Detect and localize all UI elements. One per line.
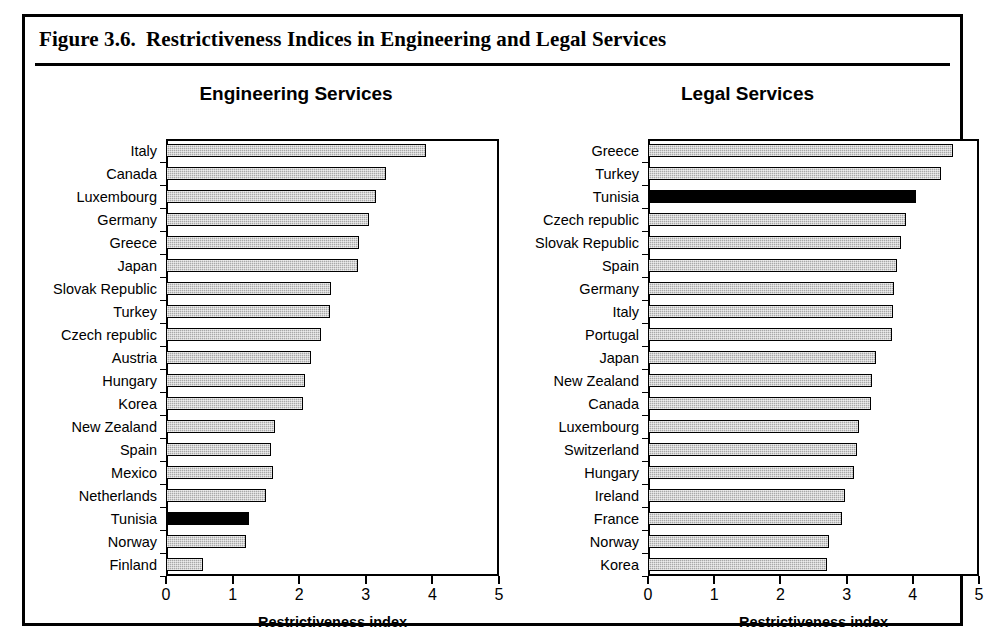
x-axis-title-engineering: Restrictiveness index [166,614,499,630]
category-label-norway: Norway [108,535,157,549]
y-tick [642,162,648,163]
bar-portugal [648,328,892,341]
bar-switzerland [648,443,857,456]
y-tick [642,438,648,439]
figure-title: Figure 3.6.Restrictiveness Indices in En… [39,27,666,52]
bar-finland [166,558,203,571]
bar-germany [166,213,369,226]
category-label-austria: Austria [112,351,157,365]
panel-legal-services: Legal Services GreeceTurkeyTunisiaCzech … [505,69,960,619]
category-label-portugal: Portugal [585,328,639,342]
x-tick-label: 3 [361,586,370,604]
x-tick [713,576,715,584]
category-label-greece: Greece [109,236,157,250]
y-tick [160,438,166,439]
category-label-canada: Canada [588,397,639,411]
bar-new-zealand [166,420,275,433]
y-tick [642,530,648,531]
y-tick [160,415,166,416]
x-tick-label: 1 [710,586,719,604]
bar-norway [648,535,829,548]
x-tick [165,576,167,584]
category-label-italy: Italy [612,305,639,319]
figure-frame: Figure 3.6.Restrictiveness Indices in En… [22,14,963,626]
x-tick [846,576,848,584]
x-tick [431,576,433,584]
bar-japan [648,351,876,364]
x-tick-label: 5 [495,586,504,604]
x-tick [298,576,300,584]
category-label-germany: Germany [97,213,157,227]
y-tick [160,277,166,278]
category-label-tunisia: Tunisia [111,512,157,526]
bars-engineering [166,139,499,576]
y-tick [160,231,166,232]
y-tick [160,254,166,255]
x-tick [232,576,234,584]
x-tick-label: 0 [162,586,171,604]
x-axis-engineering: 012345 [166,576,499,584]
category-label-luxembourg: Luxembourg [558,420,639,434]
category-label-hungary: Hungary [584,466,639,480]
category-label-slovak-republic: Slovak Republic [535,236,639,250]
x-tick-label: 0 [644,586,653,604]
x-tick [647,576,649,584]
y-tick [160,369,166,370]
panel-engineering-services: Engineering Services ItalyCanadaLuxembou… [31,69,501,619]
category-label-czech-republic: Czech republic [61,328,157,342]
x-tick-label: 4 [908,586,917,604]
y-tick [160,553,166,554]
category-label-korea: Korea [118,397,157,411]
x-tick [498,576,500,584]
y-tick [160,530,166,531]
bar-canada [166,167,386,180]
y-tick [642,323,648,324]
y-tick [642,392,648,393]
bar-spain [648,259,897,272]
bar-canada [648,397,871,410]
bar-luxembourg [166,190,376,203]
x-tick-label: 5 [975,586,984,604]
category-label-switzerland: Switzerland [564,443,639,457]
y-tick [160,461,166,462]
y-tick [642,461,648,462]
bar-austria [166,351,311,364]
x-tick [912,576,914,584]
y-tick [160,300,166,301]
x-axis-title-legal: Restrictiveness index [648,614,979,630]
x-tick [365,576,367,584]
bar-czech-republic [648,213,906,226]
bar-czech-republic [166,328,321,341]
bar-slovak-republic [648,236,901,249]
bar-norway [166,535,246,548]
category-label-slovak-republic: Slovak Republic [53,282,157,296]
category-label-italy: Italy [130,144,157,158]
bar-luxembourg [648,420,859,433]
category-label-luxembourg: Luxembourg [76,190,157,204]
panel-title-engineering: Engineering Services [31,83,501,105]
y-tick [642,415,648,416]
x-axis-legal: 012345 [648,576,979,584]
category-label-czech-republic: Czech republic [543,213,639,227]
category-label-japan: Japan [599,351,639,365]
y-tick [642,277,648,278]
x-tick [978,576,980,584]
category-label-new-zealand: New Zealand [72,420,157,434]
plot-legal: GreeceTurkeyTunisiaCzech republicSlovak … [648,139,979,576]
y-tick [642,185,648,186]
bar-greece [166,236,359,249]
category-label-korea: Korea [600,558,639,572]
category-label-tunisia: Tunisia [593,190,639,204]
y-tick [642,507,648,508]
category-label-finland: Finland [109,558,157,572]
x-tick-label: 4 [428,586,437,604]
bar-new-zealand [648,374,872,387]
bar-italy [166,144,426,157]
category-label-france: France [594,512,639,526]
panel-title-legal: Legal Services [505,83,960,105]
figure-title-text: Restrictiveness Indices in Engineering a… [146,27,666,51]
bar-germany [648,282,894,295]
x-tick-label: 3 [842,586,851,604]
category-labels-legal: GreeceTurkeyTunisiaCzech republicSlovak … [498,139,648,576]
category-label-greece: Greece [591,144,639,158]
